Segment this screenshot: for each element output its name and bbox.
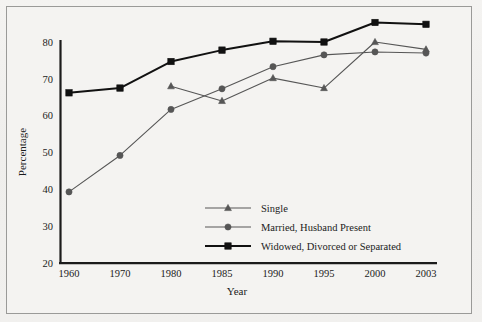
data-point-circle (423, 50, 429, 56)
series-1 (168, 38, 430, 103)
data-point-square (66, 90, 72, 96)
plot-area: 80 70 60 50 40 30 20 1960 1970 1980 1985… (0, 0, 482, 322)
x-tick-label: 1995 (314, 268, 335, 279)
data-point-square (117, 85, 123, 91)
data-point-triangle (168, 83, 175, 89)
y-tick-label: 40 (43, 184, 54, 195)
legend-label: Single (261, 203, 288, 214)
x-tick-label: 1990 (263, 268, 284, 279)
data-point-circle (225, 224, 231, 230)
series-3 (66, 19, 429, 96)
data-point-square (219, 47, 225, 53)
axis-lines (59, 40, 437, 264)
legend-item: Single (205, 203, 288, 214)
y-tick-label: 60 (43, 110, 54, 121)
y-tick-label: 30 (43, 221, 54, 232)
y-tick-label: 70 (43, 74, 54, 85)
data-point-square (270, 38, 276, 44)
series-line (69, 52, 426, 192)
data-point-triangle (270, 74, 277, 80)
x-tick-label: 1985 (212, 268, 233, 279)
data-point-square (372, 19, 378, 25)
data-point-circle (270, 64, 276, 70)
legend-label: Widowed, Divorced or Separated (261, 241, 402, 252)
y-tick-label: 50 (43, 147, 54, 158)
chart-legend: SingleMarried, Husband PresentWidowed, D… (205, 203, 402, 252)
legend-label: Married, Husband Present (261, 222, 371, 233)
y-tick-label: 20 (43, 258, 54, 269)
x-tick-label: 2000 (365, 268, 386, 279)
x-tick-label: 1980 (161, 268, 182, 279)
y-tick-label: 80 (43, 37, 54, 48)
series-line (69, 22, 426, 92)
data-point-square (423, 21, 429, 27)
data-point-square (225, 243, 231, 249)
data-point-square (321, 39, 327, 45)
x-tick-label: 1970 (110, 268, 131, 279)
y-axis-title: Percentage (16, 128, 28, 176)
data-point-triangle (372, 38, 379, 44)
series-line (171, 42, 426, 101)
series-2 (66, 49, 429, 195)
x-tick-label: 1960 (59, 268, 80, 279)
data-point-circle (321, 52, 327, 58)
chart-page: 80 70 60 50 40 30 20 1960 1970 1980 1985… (0, 0, 482, 322)
x-tick-label: 2003 (416, 268, 437, 279)
data-point-circle (117, 152, 123, 158)
line-chart: 80 70 60 50 40 30 20 1960 1970 1980 1985… (0, 0, 482, 322)
data-point-circle (372, 49, 378, 55)
y-tick-labels: 80 70 60 50 40 30 20 (43, 37, 54, 269)
data-point-circle (66, 189, 72, 195)
series-layer (66, 19, 430, 195)
x-axis-title: Year (227, 285, 248, 297)
legend-item: Married, Husband Present (205, 222, 371, 233)
data-point-square (168, 58, 174, 64)
data-point-circle (219, 86, 225, 92)
x-tick-labels: 1960 1970 1980 1985 1990 1995 2000 2003 (59, 268, 437, 279)
data-point-circle (168, 106, 174, 112)
legend-item: Widowed, Divorced or Separated (205, 241, 402, 252)
